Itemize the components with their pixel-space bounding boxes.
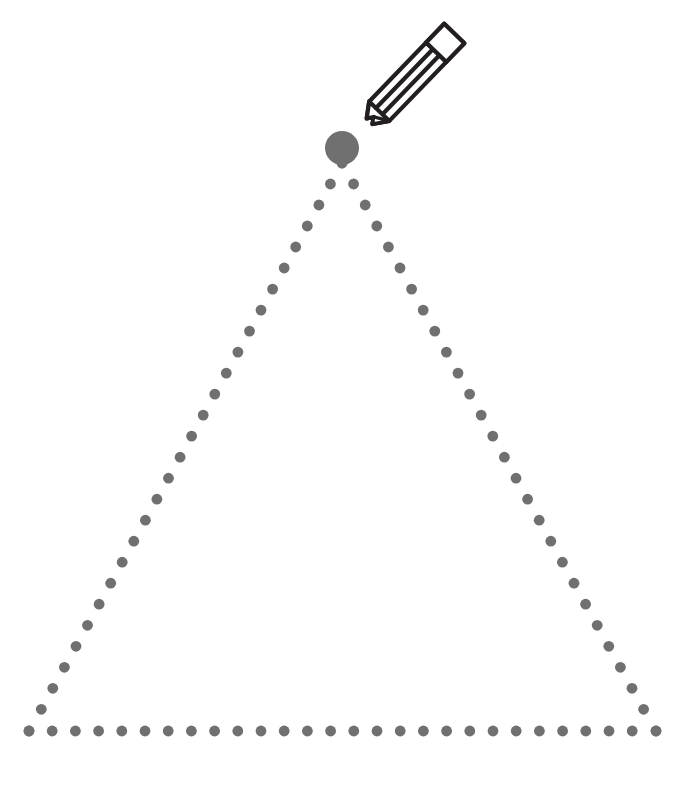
start-point-marker	[325, 131, 359, 165]
base-edge-dot	[93, 726, 104, 737]
left-edge-dot	[198, 410, 209, 421]
left-edge-dot	[244, 326, 255, 337]
left-edge-dot	[163, 473, 174, 484]
base-edge-dot	[627, 726, 638, 737]
left-edge-dot	[47, 683, 58, 694]
canvas-background	[0, 0, 675, 787]
left-edge-dot	[290, 242, 301, 253]
left-edge-dot	[175, 452, 186, 463]
right-edge-dot	[487, 431, 498, 442]
base-edge-dot	[70, 726, 81, 737]
right-edge-dot	[534, 515, 545, 526]
left-edge-dot	[36, 704, 47, 715]
right-edge-dot	[395, 263, 406, 274]
right-edge-dot	[557, 557, 568, 568]
right-edge-dot	[615, 662, 626, 673]
base-edge-dot	[163, 726, 174, 737]
right-edge-dot	[592, 620, 603, 631]
start-point-dot	[325, 131, 359, 165]
right-edge-dot	[429, 326, 440, 337]
base-edge-dot	[232, 726, 243, 737]
left-edge-dot	[186, 431, 197, 442]
base-edge-dot	[464, 726, 475, 737]
right-edge-dot	[569, 578, 580, 589]
base-edge-dot	[186, 726, 197, 737]
left-edge-dot	[279, 263, 290, 274]
base-edge-dot	[302, 726, 313, 737]
left-edge-dot	[256, 305, 267, 316]
right-edge-dot	[522, 494, 533, 505]
left-edge-dot	[82, 620, 93, 631]
base-edge-dot	[116, 726, 127, 737]
base-edge-dot	[47, 726, 58, 737]
base-edge-dot	[395, 726, 406, 737]
right-edge-dot	[638, 704, 649, 715]
left-edge-dot	[140, 515, 151, 526]
right-edge-dot	[360, 200, 371, 211]
right-edge-dot	[453, 368, 464, 379]
right-edge-dot	[371, 221, 382, 232]
base-edge-dot	[325, 726, 336, 737]
base-edge-dot	[441, 726, 452, 737]
left-edge-dot	[302, 221, 313, 232]
tracing-figure	[0, 0, 675, 787]
base-edge-dot	[651, 726, 662, 737]
right-edge-dot	[580, 599, 591, 610]
right-edge-dot	[511, 473, 522, 484]
right-edge-dot	[406, 284, 417, 295]
right-edge-dot	[464, 389, 475, 400]
left-edge-dot	[233, 347, 244, 358]
base-edge-dot	[24, 726, 35, 737]
left-edge-dot	[94, 599, 105, 610]
worksheet-canvas: Dotted Triangle Tracing Worksheet	[0, 0, 675, 787]
base-edge-dot	[418, 726, 429, 737]
base-edge-dot	[604, 726, 615, 737]
base-edge-dot	[557, 726, 568, 737]
base-edge-dot	[140, 726, 151, 737]
right-edge-dot	[383, 242, 394, 253]
left-edge-dot	[105, 578, 116, 589]
left-edge-dot	[128, 536, 139, 547]
left-edge-dot	[314, 200, 325, 211]
right-edge-dot	[476, 410, 487, 421]
base-edge-dot	[256, 726, 267, 737]
left-edge-dot	[59, 662, 70, 673]
right-edge-dot	[627, 683, 638, 694]
right-edge-dot	[418, 305, 429, 316]
start-point	[325, 131, 359, 165]
right-edge-dot	[499, 452, 510, 463]
base-edge-dot	[372, 726, 383, 737]
base-edge-dot	[488, 726, 499, 737]
base-edge-dot	[534, 726, 545, 737]
right-edge-dot	[348, 179, 359, 190]
left-edge-dot	[71, 641, 82, 652]
left-edge-dot	[152, 494, 163, 505]
left-edge-dot	[209, 389, 220, 400]
base-edge-dot	[511, 726, 522, 737]
right-edge-dot	[441, 347, 452, 358]
left-edge-dot	[117, 557, 128, 568]
left-edge-dot	[267, 284, 278, 295]
right-edge-dot	[603, 641, 614, 652]
left-edge-dot	[221, 368, 232, 379]
left-edge-dot	[325, 179, 336, 190]
base-edge-dot	[209, 726, 220, 737]
base-edge-dot	[348, 726, 359, 737]
base-edge-dot	[279, 726, 290, 737]
base-edge-dot	[580, 726, 591, 737]
right-edge-dot	[545, 536, 556, 547]
